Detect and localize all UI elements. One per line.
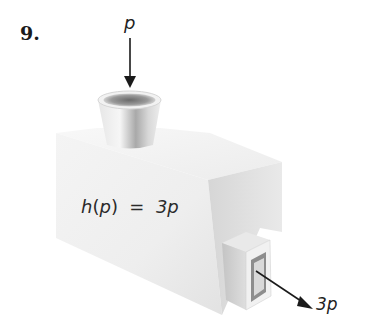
input-funnel — [98, 91, 161, 149]
exercise-number: 9. — [20, 22, 40, 44]
machine-drawing — [0, 0, 374, 336]
output-tube — [222, 232, 271, 310]
rule-rhs: 3p — [156, 196, 179, 217]
output-label: 3p — [316, 294, 338, 314]
rule-name: h — [81, 196, 92, 217]
input-label: p — [124, 12, 135, 33]
input-arrow-icon — [124, 38, 136, 88]
function-machine-figure: 9. p h(p) = 3p 3p — [0, 0, 374, 336]
rule-arg: p — [99, 196, 110, 217]
function-rule: h(p) = 3p — [81, 196, 179, 217]
